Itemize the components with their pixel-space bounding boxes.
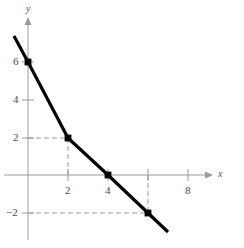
x-tick-label-8: 8	[185, 185, 191, 196]
y-tick-label-minus-2: −2	[6, 207, 18, 218]
figure-graph-piecewise-line: 6 4 2 −2 2 4 8 x y	[0, 0, 244, 248]
x-axis-label: x	[218, 169, 222, 179]
x-tick-label-4: 4	[105, 185, 111, 196]
data-point-4-0	[105, 172, 112, 179]
x-axis-arrow-icon	[205, 172, 213, 179]
plot-canvas	[0, 0, 244, 248]
y-tick-label-4: 4	[13, 94, 19, 105]
y-axis-label: y	[26, 4, 30, 14]
graph-curve	[14, 36, 168, 232]
data-point-0-6	[25, 59, 32, 66]
x-tick-label-2: 2	[65, 185, 71, 196]
data-point-6-minus-2	[145, 210, 152, 217]
y-axis-arrow-icon	[25, 17, 32, 25]
data-point-2-2	[65, 135, 72, 142]
y-tick-label-2: 2	[13, 132, 19, 143]
y-tick-label-6: 6	[13, 56, 19, 67]
